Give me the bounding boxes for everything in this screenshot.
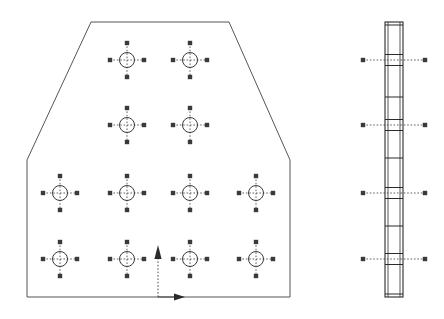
hole-centerline-tick bbox=[125, 274, 129, 278]
hole-centerline-tick bbox=[188, 240, 192, 244]
hole-centerline-tick bbox=[58, 174, 62, 178]
hole-centerline-tick bbox=[188, 140, 192, 144]
drawing-canvas bbox=[0, 0, 444, 319]
hole-centerline-tick bbox=[125, 41, 129, 45]
hole-centerline-tick bbox=[188, 41, 192, 45]
hole-centerline-tick bbox=[254, 240, 258, 244]
hole-centerline-tick bbox=[254, 274, 258, 278]
side-hole-mark bbox=[361, 254, 427, 265]
side-hole-centerline-tick bbox=[361, 58, 365, 62]
hole-centerline-tick bbox=[271, 257, 275, 261]
side-hole-centerline-tick bbox=[361, 191, 365, 195]
datum-arrow-right bbox=[174, 293, 185, 300]
hole-centerline-tick bbox=[108, 123, 112, 127]
hole-centerline-tick bbox=[125, 208, 129, 212]
hole-centerline-tick bbox=[254, 174, 258, 178]
hole-centerline-tick bbox=[271, 191, 275, 195]
hole-centerline-tick bbox=[125, 174, 129, 178]
hole-centerline-tick bbox=[254, 208, 258, 212]
hole-centerline-tick bbox=[171, 58, 175, 62]
hole-centerline-tick bbox=[41, 191, 45, 195]
side-hole-centerline-tick bbox=[423, 123, 427, 127]
side-hole-mark bbox=[361, 120, 427, 131]
hole-centerline-tick bbox=[171, 191, 175, 195]
front-view bbox=[27, 22, 290, 301]
hole-centerline-tick bbox=[75, 191, 79, 195]
side-plate-body bbox=[385, 22, 403, 297]
hole-centerline-tick bbox=[171, 123, 175, 127]
hole-symbol bbox=[41, 240, 79, 278]
side-hole-mark bbox=[361, 55, 427, 66]
hole-centerline-tick bbox=[41, 257, 45, 261]
hole-centerline-tick bbox=[125, 240, 129, 244]
cad-drawing-svg bbox=[0, 0, 444, 319]
hole-centerline-tick bbox=[108, 257, 112, 261]
hole-symbol bbox=[237, 174, 275, 212]
hole-centerline-tick bbox=[75, 257, 79, 261]
side-view bbox=[361, 22, 427, 297]
hole-centerline-tick bbox=[188, 274, 192, 278]
hole-centerline-tick bbox=[108, 191, 112, 195]
side-hole-centerline-tick bbox=[423, 58, 427, 62]
hole-centerline-tick bbox=[237, 257, 241, 261]
hole-symbol bbox=[237, 240, 275, 278]
hole-centerline-tick bbox=[142, 58, 146, 62]
hole-centerline-tick bbox=[188, 106, 192, 110]
side-hole-centerline-tick bbox=[361, 123, 365, 127]
hole-centerline-tick bbox=[205, 123, 209, 127]
hole-symbol bbox=[108, 240, 146, 278]
hole-centerline-tick bbox=[125, 75, 129, 79]
side-hole-centerline-tick bbox=[423, 257, 427, 261]
hole-centerline-tick bbox=[205, 257, 209, 261]
origin-datum bbox=[154, 245, 185, 301]
hole-centerline-tick bbox=[125, 140, 129, 144]
hole-pattern bbox=[41, 41, 275, 278]
hole-centerline-tick bbox=[142, 257, 146, 261]
side-hole-marks bbox=[361, 55, 427, 265]
side-hole-centerline-tick bbox=[423, 191, 427, 195]
hole-centerline-tick bbox=[58, 274, 62, 278]
hole-symbol bbox=[171, 174, 209, 212]
hole-symbol bbox=[108, 106, 146, 144]
hole-centerline-tick bbox=[205, 58, 209, 62]
side-hole-centerline-tick bbox=[361, 257, 365, 261]
hole-centerline-tick bbox=[142, 191, 146, 195]
hole-centerline-tick bbox=[142, 123, 146, 127]
hole-centerline-tick bbox=[237, 191, 241, 195]
hole-centerline-tick bbox=[125, 106, 129, 110]
hole-symbol bbox=[108, 41, 146, 79]
hole-symbol bbox=[41, 174, 79, 212]
hole-symbol bbox=[171, 106, 209, 144]
hole-symbol bbox=[108, 174, 146, 212]
hole-centerline-tick bbox=[205, 191, 209, 195]
hole-symbol bbox=[171, 41, 209, 79]
hole-centerline-tick bbox=[58, 240, 62, 244]
side-hole-mark bbox=[361, 188, 427, 199]
hole-centerline-tick bbox=[188, 208, 192, 212]
hole-centerline-tick bbox=[171, 257, 175, 261]
hole-centerline-tick bbox=[188, 75, 192, 79]
hole-centerline-tick bbox=[58, 208, 62, 212]
datum-arrow-up bbox=[154, 245, 161, 259]
hole-symbol bbox=[171, 240, 209, 278]
hole-centerline-tick bbox=[188, 174, 192, 178]
hole-centerline-tick bbox=[108, 58, 112, 62]
